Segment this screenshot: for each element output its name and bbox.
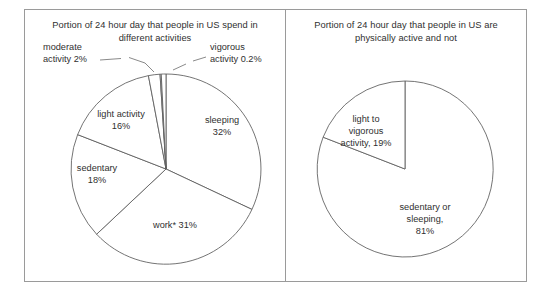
label-work: work* 31%: [152, 220, 197, 230]
leader-line-vigorous: [173, 57, 206, 70]
label-sedentary-pct: 18%: [88, 175, 106, 185]
label-active-line1: light to: [352, 114, 379, 124]
right-chart-canvas: light to vigorous activity, 19% sedentar…: [286, 10, 526, 281]
panel-activities-breakdown: Portion of 24 hour day that people in US…: [25, 10, 286, 281]
label-light-activity-pct: 16%: [112, 121, 130, 131]
left-chart-canvas: sleeping 32% work* 31% sedentary 18% lig…: [25, 10, 285, 281]
leader-line-moderate: [100, 58, 154, 73]
label-sedentary: sedentary: [77, 163, 118, 173]
label-active-line2: vigorous: [349, 126, 384, 136]
label-vigorous-line2: activity 0.2%: [210, 54, 262, 64]
label-sleeping-pct: 32%: [213, 127, 231, 137]
label-active-line3: activity, 19%: [341, 138, 392, 148]
label-moderate-line1: moderate: [43, 42, 82, 52]
label-inactive-line3: 81%: [416, 226, 434, 236]
label-sleeping: sleeping: [205, 115, 239, 125]
label-moderate-line2: activity 2%: [43, 54, 87, 64]
label-inactive-line2: sleeping,: [407, 214, 444, 224]
panel-container: Portion of 24 hour day that people in US…: [24, 9, 527, 282]
right-pie-svg: light to vigorous activity, 19% sedentar…: [286, 10, 527, 283]
figure-root: Portion of 24 hour day that people in US…: [0, 0, 553, 292]
label-vigorous-line1: vigorous: [210, 42, 245, 52]
left-pie-svg: sleeping 32% work* 31% sedentary 18% lig…: [25, 10, 287, 283]
label-inactive-line1: sedentary or: [399, 202, 450, 212]
label-light-activity: light activity: [97, 109, 145, 119]
panel-active-vs-not: Portion of 24 hour day that people in US…: [286, 10, 526, 281]
